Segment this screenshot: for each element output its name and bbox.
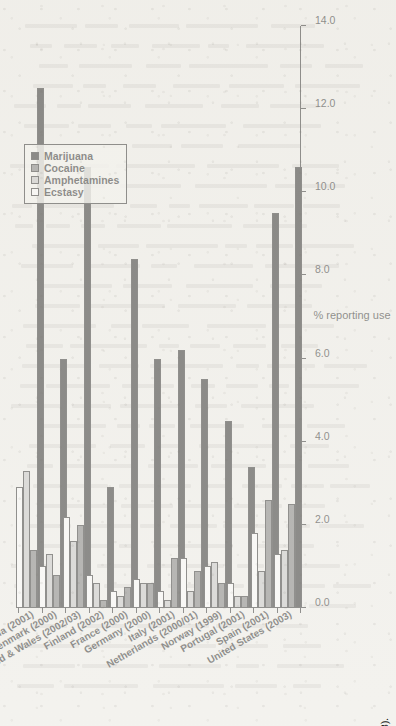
bar-marijuana-4 [131,259,138,608]
bar-ecstasy-10 [251,533,258,608]
bar-ecstasy-6 [157,591,164,608]
category-axis-tick [159,608,160,613]
legend-label: Ecstasy [44,186,84,198]
bar-cocaine-10 [265,500,272,608]
value-axis-tick-label: 2.0 [315,513,330,525]
bar-cocaine-7 [194,571,201,608]
bar-amphetamines-8 [211,562,218,608]
legend-swatch-icon [31,152,39,160]
legend-swatch-icon [31,188,39,196]
bar-marijuana-10 [272,213,279,608]
bar-ecstasy-2 [63,517,70,608]
bar-ecstasy-3 [86,575,93,608]
bar-cocaine-4 [124,587,131,608]
bar-ecstasy-4 [110,591,117,608]
category-axis-tick [89,608,90,613]
value-axis-tick [301,25,306,26]
bar-amphetamines-11 [281,550,288,608]
category-axis-tick [112,608,113,613]
value-axis-tick [301,108,306,109]
bar-amphetamines-6 [164,600,171,608]
value-axis-title: % reporting use [313,309,390,321]
category-axis-tick [183,608,184,613]
category-axis-tick [230,608,231,613]
bar-amphetamines-0 [23,471,30,608]
bar-amphetamines-5 [140,583,147,608]
value-axis-tick-label: 10.0 [315,180,335,192]
bar-ecstasy-11 [274,554,281,608]
bar-ecstasy-9 [227,583,234,608]
bar-amphetamines-3 [93,583,100,608]
bar-amphetamines-1 [46,554,53,608]
legend-swatch-icon [31,176,39,184]
bar-amphetamines-2 [70,542,77,609]
plot-area: 0.02.04.06.08.010.012.014.0% reporting u… [0,0,396,726]
category-axis-tick [206,608,207,613]
bar-ecstasy-0 [16,487,23,608]
category-axis-tick [136,608,137,613]
legend-item-marijuana[interactable]: Marijuana [31,150,119,162]
bar-ecstasy-1 [39,566,46,608]
value-axis-tick-label: 0.0 [315,596,330,608]
bar-ecstasy-7 [180,558,187,608]
value-axis-tick-label: 12.0 [315,97,335,109]
legend-label: Amphetamines [44,174,119,186]
legend-label: Cocaine [44,162,85,174]
chart-canvas: 0.02.04.06.08.010.012.014.0% reporting u… [0,0,396,726]
bar-amphetamines-4 [117,596,124,608]
category-axis-tick [18,608,19,613]
bar-ecstasy-8 [204,566,211,608]
bar-marijuana-11 [295,167,302,608]
source-caption: Source: EMCDDA (2004) and NHSDA, Austral… [379,718,390,726]
bar-amphetamines-9 [234,596,241,608]
bar-marijuana-8 [225,421,232,608]
bar-cocaine-0 [30,550,37,608]
category-axis-tick [253,608,254,613]
legend-item-ecstasy[interactable]: Ecstasy [31,186,119,198]
category-axis-tick [277,608,278,613]
value-axis-tick-label: 6.0 [315,347,330,359]
bar-amphetamines-10 [258,571,265,608]
value-axis-tick-label: 14.0 [315,14,335,26]
bar-marijuana-5 [154,359,161,608]
legend-item-amphetamines[interactable]: Amphetamines [31,174,119,186]
legend-item-cocaine[interactable]: Cocaine [31,162,119,174]
value-axis-tick-label: 8.0 [315,263,330,275]
bar-cocaine-9 [241,596,248,608]
chart-legend: MarijuanaCocaineAmphetaminesEcstasy [24,144,127,204]
bar-cocaine-3 [100,600,107,608]
bar-cocaine-1 [53,575,60,608]
bar-cocaine-2 [77,525,84,608]
bar-marijuana-3 [107,487,114,608]
bar-cocaine-8 [218,583,225,608]
legend-swatch-icon [31,164,39,172]
value-axis-tick-label: 4.0 [315,430,330,442]
bar-amphetamines-7 [187,591,194,608]
bar-cocaine-6 [171,558,178,608]
bar-marijuana-2 [84,167,91,608]
source-text: EMCDDA (2004) and NHSDA, Australia (2003… [379,718,390,726]
bar-cocaine-11 [288,504,295,608]
category-axis-tick [65,608,66,613]
bar-cocaine-5 [147,583,154,608]
category-axis-tick [300,608,301,613]
category-axis-tick [42,608,43,613]
bar-ecstasy-5 [133,579,140,608]
legend-label: Marijuana [44,150,93,162]
